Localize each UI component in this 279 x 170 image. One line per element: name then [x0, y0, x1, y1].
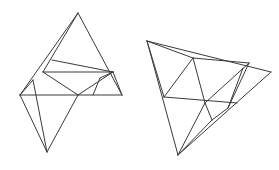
geometry-figure-canvas	[0, 0, 279, 170]
